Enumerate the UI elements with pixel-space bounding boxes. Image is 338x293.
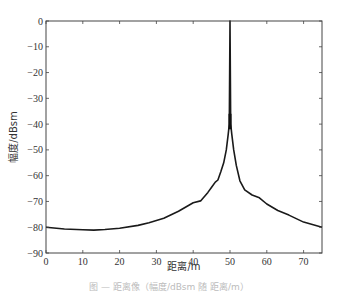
x-tick-label: 10	[78, 256, 88, 267]
y-tick-label: −40	[27, 119, 43, 130]
data-series-line	[46, 21, 322, 230]
y-tick-label: −70	[27, 196, 43, 207]
y-tick-label: −50	[27, 144, 43, 155]
y-tick-label: −90	[27, 248, 43, 259]
y-tick-label: −20	[27, 67, 43, 78]
y-tick-label: −10	[27, 41, 43, 52]
x-tick-label: 30	[151, 256, 161, 267]
x-tick-label: 50	[225, 256, 235, 267]
y-tick-label: 0	[38, 16, 43, 27]
x-tick-label: 60	[262, 256, 272, 267]
x-tick-label: 70	[299, 256, 309, 267]
x-tick-label: 0	[44, 256, 49, 267]
x-axis-label: 距离/m	[167, 260, 200, 272]
figure-caption: 图 — 距离像（幅度/dBsm 随 距离/m）	[0, 280, 338, 293]
y-axis: 0−10−20−30−40−50−60−70−80−90	[27, 16, 322, 259]
axes-frame	[46, 21, 322, 253]
x-tick-label: 20	[115, 256, 125, 267]
plot-area	[46, 21, 322, 253]
y-tick-label: −60	[27, 170, 43, 181]
y-tick-label: −80	[27, 222, 43, 233]
y-axis-label: 幅度/dBsm	[7, 111, 19, 163]
y-tick-label: −30	[27, 93, 43, 104]
